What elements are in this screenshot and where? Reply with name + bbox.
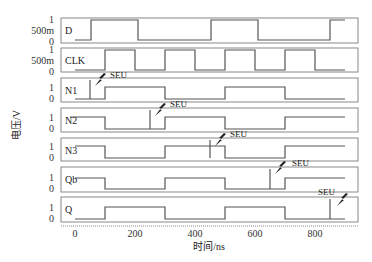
y-tick: 1 [49, 172, 54, 183]
seu-label-q: SEU [318, 187, 336, 197]
x-tick: 800 [308, 228, 323, 239]
y-tick: 0 [49, 123, 54, 134]
x-tick: 200 [128, 228, 143, 239]
seu-label-qb: SEU [292, 158, 310, 168]
seu-label-n2: SEU [170, 99, 188, 109]
waveform-q [75, 207, 345, 219]
y-axis-label: 电压/V [10, 109, 22, 140]
seu-label-n3: SEU [230, 129, 248, 139]
panel-d [61, 18, 358, 43]
waveform-qb [75, 178, 345, 189]
signal-label-d: D [65, 25, 72, 36]
lightning-icon [95, 73, 106, 86]
timing-diagram: SEU SEU SEU SEU SEU D CLK N1 N2 N3 Qb Q … [0, 0, 372, 262]
y-tick: 0 [49, 213, 54, 224]
y-tick: 0 [49, 152, 54, 163]
lightning-icon [337, 193, 348, 206]
lightning-icon [215, 133, 226, 146]
waveform-n2 [70, 117, 345, 129]
signal-label-qb: Qb [65, 174, 77, 185]
waveform-n1 [75, 87, 345, 99]
x-axis-label: 时间/ns [193, 240, 225, 252]
signal-label-n2: N2 [65, 115, 77, 126]
signal-label-n1: N1 [65, 85, 77, 96]
waveform-d [75, 20, 345, 40]
x-tick: 0 [73, 228, 78, 239]
y-tick: 1 [49, 44, 54, 55]
x-tick: 600 [248, 228, 263, 239]
y-tick: 1 [49, 112, 54, 123]
waveform-clk [75, 50, 345, 70]
y-tick: 1 [49, 141, 54, 152]
y-tick: 1 [49, 202, 54, 213]
y-tick: 1 [49, 14, 54, 25]
y-tick: 0 [49, 66, 54, 77]
x-tick: 400 [188, 228, 203, 239]
seu-label-n1: SEU [110, 70, 128, 80]
y-tick: 0 [49, 93, 54, 104]
signal-label-clk: CLK [65, 55, 86, 66]
y-tick: 0 [49, 183, 54, 194]
lightning-icon [155, 103, 166, 116]
signal-label-n3: N3 [65, 145, 77, 156]
y-tick: 500m [31, 55, 54, 66]
y-tick: 500m [31, 25, 54, 36]
y-tick: 1 [49, 82, 54, 93]
signal-label-q: Q [65, 204, 73, 215]
